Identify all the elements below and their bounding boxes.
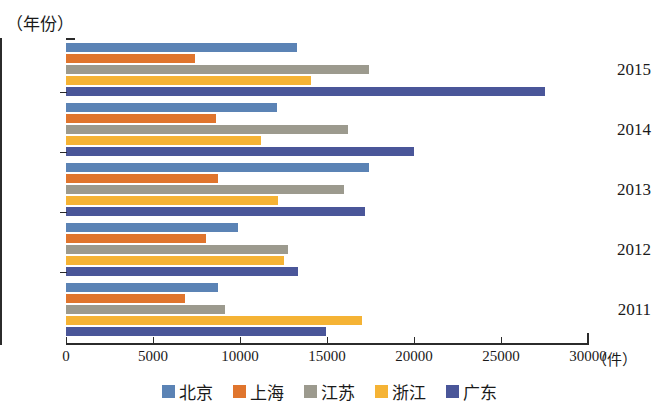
bar bbox=[66, 207, 365, 216]
y-axis-category-label: 2013 bbox=[617, 180, 651, 200]
x-axis-tick-label: 10000 bbox=[221, 348, 259, 365]
bar bbox=[66, 76, 311, 85]
legend-item-3[interactable]: 江苏 bbox=[304, 379, 355, 404]
bar bbox=[66, 316, 362, 325]
x-axis-tick bbox=[240, 337, 241, 344]
x-axis-tick-label: 20000 bbox=[395, 348, 433, 365]
bar bbox=[66, 54, 195, 63]
y-axis-top-cap bbox=[66, 38, 75, 40]
bar bbox=[66, 103, 277, 112]
y-axis-tick bbox=[60, 272, 67, 273]
bar-group bbox=[0, 43, 659, 98]
bar-group bbox=[0, 283, 659, 338]
bar bbox=[66, 327, 326, 336]
legend-swatch-icon bbox=[233, 385, 246, 398]
y-axis-caption: （年份） bbox=[6, 10, 74, 35]
legend-swatch-icon bbox=[446, 385, 459, 398]
bar-chart: （年份） 050001000015000200002500030000 2015… bbox=[0, 0, 659, 410]
bar-group bbox=[0, 103, 659, 158]
legend-item-1[interactable]: 北京 bbox=[162, 379, 213, 404]
bar bbox=[66, 136, 261, 145]
x-axis-tick bbox=[153, 337, 154, 344]
bar bbox=[66, 267, 298, 276]
bar bbox=[66, 65, 369, 74]
bar bbox=[66, 185, 344, 194]
bar bbox=[66, 256, 284, 265]
legend-label: 江苏 bbox=[321, 379, 355, 404]
x-axis-tick-label: 25000 bbox=[482, 348, 520, 365]
y-axis-category-label: 2015 bbox=[617, 60, 651, 80]
bar bbox=[66, 283, 218, 292]
x-axis-tick-label: 15000 bbox=[308, 348, 346, 365]
bar bbox=[66, 196, 278, 205]
x-axis-tick bbox=[327, 337, 328, 344]
y-axis-tick bbox=[60, 92, 67, 93]
bar bbox=[66, 294, 185, 303]
bar bbox=[66, 174, 218, 183]
chart-legend: 北京上海江苏浙江广东 bbox=[0, 379, 659, 404]
bar bbox=[66, 163, 369, 172]
legend-item-5[interactable]: 广东 bbox=[446, 379, 497, 404]
x-axis-tick bbox=[501, 337, 502, 344]
bar-group bbox=[0, 223, 659, 278]
x-axis-tick-label: 0 bbox=[62, 348, 70, 365]
bar bbox=[66, 87, 545, 96]
x-axis-tick bbox=[66, 337, 67, 344]
bar bbox=[66, 43, 297, 52]
y-axis-tick bbox=[60, 152, 67, 153]
y-axis-tick bbox=[60, 212, 67, 213]
bar bbox=[66, 114, 216, 123]
bar-group bbox=[0, 163, 659, 218]
y-axis-category-label: 2011 bbox=[618, 300, 651, 320]
legend-label: 浙江 bbox=[392, 379, 426, 404]
x-axis-tick-label: 5000 bbox=[138, 348, 168, 365]
legend-item-2[interactable]: 上海 bbox=[233, 379, 284, 404]
y-axis-category-label: 2014 bbox=[617, 120, 651, 140]
legend-swatch-icon bbox=[304, 385, 317, 398]
bar bbox=[66, 305, 225, 314]
bar bbox=[66, 147, 414, 156]
bar bbox=[66, 234, 206, 243]
legend-label: 上海 bbox=[250, 379, 284, 404]
x-axis-unit-label: （件） bbox=[592, 348, 637, 369]
legend-swatch-icon bbox=[162, 385, 175, 398]
bar bbox=[66, 245, 288, 254]
bar bbox=[66, 223, 238, 232]
y-axis-category-label: 2012 bbox=[617, 240, 651, 260]
legend-label: 北京 bbox=[179, 379, 213, 404]
bar bbox=[66, 125, 348, 134]
legend-item-4[interactable]: 浙江 bbox=[375, 379, 426, 404]
x-axis-tick bbox=[588, 337, 589, 344]
x-axis-tick bbox=[414, 337, 415, 344]
legend-label: 广东 bbox=[463, 379, 497, 404]
legend-swatch-icon bbox=[375, 385, 388, 398]
